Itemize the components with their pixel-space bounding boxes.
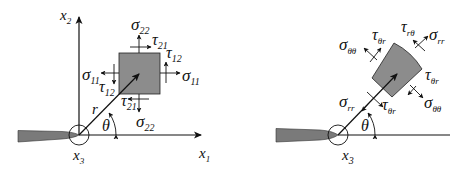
tau-thr-bottom-arrow [367, 92, 383, 107]
theta-arc-left [109, 113, 116, 135]
x3-axis-label-left: x3 [72, 147, 85, 166]
tau-thr-top-label: τθr [372, 26, 386, 46]
tau12-left-label: τ12 [99, 78, 115, 98]
tau-thr-right-label: τθr [425, 66, 439, 86]
sigma-rr-top-label: σrr [429, 25, 445, 46]
sigma-thth-right-arrow [410, 85, 423, 98]
sigma22-bottom-label: σ22 [136, 112, 154, 133]
left-panel-cartesian: x2 x1 x3 r θ σ22 τ21 τ12 σ11 σ11 τ12 τ21 [18, 7, 210, 166]
tau21-bottom-label: τ21 [121, 92, 137, 112]
sigma-rr-top-arrow [415, 36, 428, 48]
tau-thr-bottom-label: τθr [382, 96, 396, 116]
sigma-thth-right-label: σθθ [424, 93, 442, 114]
theta-arc-right [368, 113, 375, 135]
sigma11-right-label: σ11 [182, 66, 200, 87]
sigma-rr-bottom-arrow [362, 103, 369, 111]
sigma22-top-label: σ22 [131, 15, 149, 36]
radius-label-left: r [92, 101, 98, 117]
sigma-thth-left-label: σθθ [339, 35, 357, 56]
tau-rth-top-arrow [413, 40, 425, 51]
crack-tip-stress-diagram: x2 x1 x3 r θ σ22 τ21 τ12 σ11 σ11 τ12 τ21 [0, 0, 465, 173]
theta-label-right: θ [361, 117, 369, 134]
sigma-rr-bottom-label: σrr [339, 92, 355, 113]
x1-axis-label: x1 [198, 145, 210, 164]
tau12-right-label: τ12 [166, 44, 182, 64]
right-panel-polar: x3 θ σθθ τθr τrθ σrr τθr σθθ σrr τθr [276, 18, 450, 166]
x3-axis-label-right: x3 [341, 147, 354, 166]
x2-axis-label: x2 [59, 7, 72, 26]
tau-rth-top-label: τrθ [401, 18, 415, 38]
sigma11-left-label: σ11 [82, 65, 100, 86]
theta-label-left: θ [102, 117, 110, 134]
sigma-thth-left-arrow [364, 48, 377, 60]
